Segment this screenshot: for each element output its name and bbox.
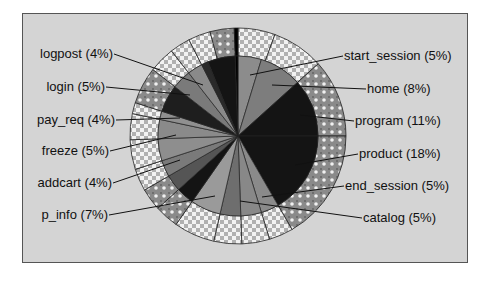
slice-label: p_info (7%): [42, 207, 108, 222]
slice-label: addcart (4%): [38, 175, 112, 190]
inner-pie: [158, 56, 318, 216]
slice-label: catalog (5%): [363, 210, 436, 225]
slice-label: freeze (5%): [42, 143, 109, 158]
slice-label: pay_req (4%): [37, 112, 115, 127]
slice-label: product (18%): [359, 146, 441, 161]
labels-right: start_session (5%)home (8%)program (11%)…: [344, 48, 452, 225]
slice-label: logpost (4%): [40, 46, 113, 61]
slice-label: end_session (5%): [345, 178, 449, 193]
nested-pie-chart: start_session (5%)home (8%)program (11%)…: [0, 0, 491, 282]
slice-label: start_session (5%): [344, 48, 452, 63]
slice-label: home (8%): [367, 81, 431, 96]
slice-label: program (11%): [355, 113, 441, 128]
outer-ring-segment: [234, 28, 238, 56]
slice-label: login (5%): [46, 79, 105, 94]
labels-left: logpost (4%)login (5%)pay_req (4%)freeze…: [37, 46, 115, 222]
